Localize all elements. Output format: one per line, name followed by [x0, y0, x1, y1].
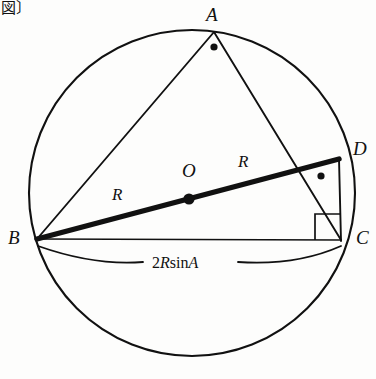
radius-label-left: R: [112, 186, 122, 203]
measure-prefix: 2: [152, 254, 160, 271]
vertex-label-d: D: [353, 139, 367, 158]
angle-a-dot-icon: [210, 43, 217, 50]
segment-dc: [339, 159, 341, 241]
segment-ac: [214, 32, 341, 240]
measure-radius-symbol: R: [160, 254, 170, 271]
vertex-label-c: C: [356, 228, 369, 247]
measure-arc-left: [38, 246, 143, 263]
segment-ba: [37, 32, 214, 239]
center-label-o: O: [182, 161, 196, 180]
geometry-canvas: [0, 0, 376, 379]
measure-angle-symbol: A: [188, 254, 198, 271]
circumscribed-circle: [29, 30, 355, 356]
angle-d-dot-icon: [317, 172, 324, 179]
measure-arc-right: [238, 246, 341, 263]
radius-label-right: R: [238, 153, 248, 170]
measure-function: sin: [170, 254, 189, 271]
measure-label-2rsina: 2RsinA: [152, 255, 198, 271]
segment-bc: [37, 239, 341, 240]
center-point-dot: [183, 193, 194, 204]
vertex-label-b: B: [8, 228, 20, 247]
vertex-label-a: A: [206, 5, 218, 24]
geometry-figure: 図〕 A B C D O R R 2RsinA: [0, 0, 376, 379]
